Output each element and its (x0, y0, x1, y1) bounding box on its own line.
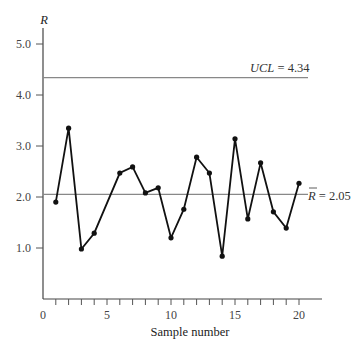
y-tick-label: 1.0 (16, 241, 31, 255)
data-point (271, 209, 276, 214)
data-point (245, 216, 250, 221)
rbar-eq: = 2.05 (316, 189, 351, 203)
data-point (156, 185, 161, 190)
r-control-chart: 1.02.03.04.05.005101520 R Sample number … (0, 0, 363, 355)
x-axis-title: Sample number (151, 325, 231, 339)
y-tick-label: 3.0 (16, 139, 31, 153)
x-tick-label: 15 (229, 308, 241, 322)
ucl-eq: = 4.34 (274, 61, 310, 75)
data-series (53, 126, 301, 259)
x-tick-label: 0 (40, 308, 46, 322)
data-point (66, 126, 71, 131)
data-point (92, 231, 97, 236)
reference-lines (43, 78, 308, 195)
data-point (284, 226, 289, 231)
data-point (258, 160, 263, 165)
ucl-label: UCL = 4.34 (250, 61, 310, 75)
y-tick-label: 5.0 (16, 37, 31, 51)
y-tick-label: 4.0 (16, 88, 31, 102)
data-point (130, 164, 135, 169)
data-point (79, 246, 84, 251)
data-point (181, 207, 186, 212)
rbar-label: R = 2.05 (307, 189, 351, 203)
x-tick-label: 10 (165, 308, 177, 322)
data-point (53, 200, 58, 205)
data-point (143, 190, 148, 195)
ucl-var: UCL (250, 61, 274, 75)
range-line (56, 128, 299, 256)
y-tick-label: 2.0 (16, 190, 31, 204)
x-tick-label: 5 (104, 308, 110, 322)
data-point (168, 235, 173, 240)
data-point (232, 136, 237, 141)
data-point (194, 155, 199, 160)
rbar-var: R (307, 189, 316, 203)
data-point (117, 170, 122, 175)
y-axis-symbol: R (39, 13, 48, 27)
data-point (220, 254, 225, 259)
data-point (207, 170, 212, 175)
data-point (296, 181, 301, 186)
x-tick-label: 20 (293, 308, 305, 322)
